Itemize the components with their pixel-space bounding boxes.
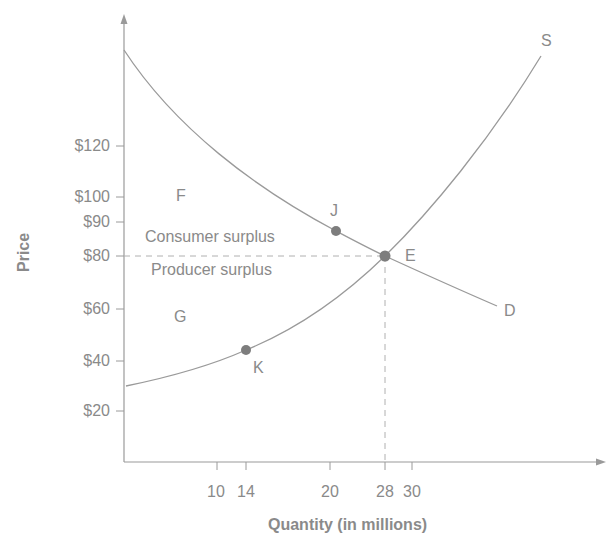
point-j-marker (331, 226, 341, 236)
x-tick-20: 20 (321, 484, 339, 500)
producer-surplus-label: Producer surplus (151, 262, 272, 278)
y-axis-arrow-icon (121, 14, 128, 24)
y-tick-90: $90 (83, 214, 110, 230)
y-tick-labels: $120 $100 $90 $80 $60 $40 $20 (0, 0, 110, 548)
x-axis-arrow-icon (596, 459, 606, 466)
y-tick-marks (116, 146, 124, 411)
y-tick-120: $120 (74, 138, 110, 154)
x-axis-title: Quantity (in millions) (268, 517, 427, 533)
demand-curve-label: D (504, 303, 516, 319)
y-tick-20: $20 (83, 403, 110, 419)
point-j-label: J (330, 203, 338, 219)
x-tick-28: 28 (376, 484, 394, 500)
y-tick-100: $100 (74, 189, 110, 205)
point-e-marker (380, 251, 391, 262)
y-tick-80: $80 (83, 248, 110, 264)
consumer-surplus-label: Consumer surplus (145, 229, 275, 245)
point-k-marker (241, 345, 251, 355)
supply-demand-chart: $120 $100 $90 $80 $60 $40 $20 10 14 20 2… (0, 0, 614, 548)
supply-curve-label: S (541, 33, 552, 49)
x-tick-10: 10 (207, 484, 225, 500)
point-k-label: K (253, 360, 264, 376)
point-e-label: E (405, 248, 416, 264)
region-f-label: F (176, 188, 186, 204)
y-tick-60: $60 (83, 301, 110, 317)
supply-curve (126, 56, 541, 386)
region-g-label: G (174, 309, 186, 325)
y-axis-title: Price (16, 233, 32, 272)
x-tick-14: 14 (237, 484, 255, 500)
x-tick-marks (217, 462, 412, 470)
y-tick-40: $40 (83, 353, 110, 369)
x-tick-30: 30 (403, 484, 421, 500)
